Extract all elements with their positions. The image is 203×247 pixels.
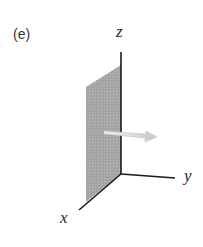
z-axis-label: z	[116, 22, 123, 42]
panel-label: (e)	[13, 26, 30, 42]
x-axis-label: x	[60, 208, 68, 228]
coordinate-diagram	[0, 0, 203, 247]
diagram-canvas: (e) z y x	[0, 0, 203, 247]
y-axis-label: y	[184, 166, 192, 186]
y-axis	[121, 174, 175, 178]
